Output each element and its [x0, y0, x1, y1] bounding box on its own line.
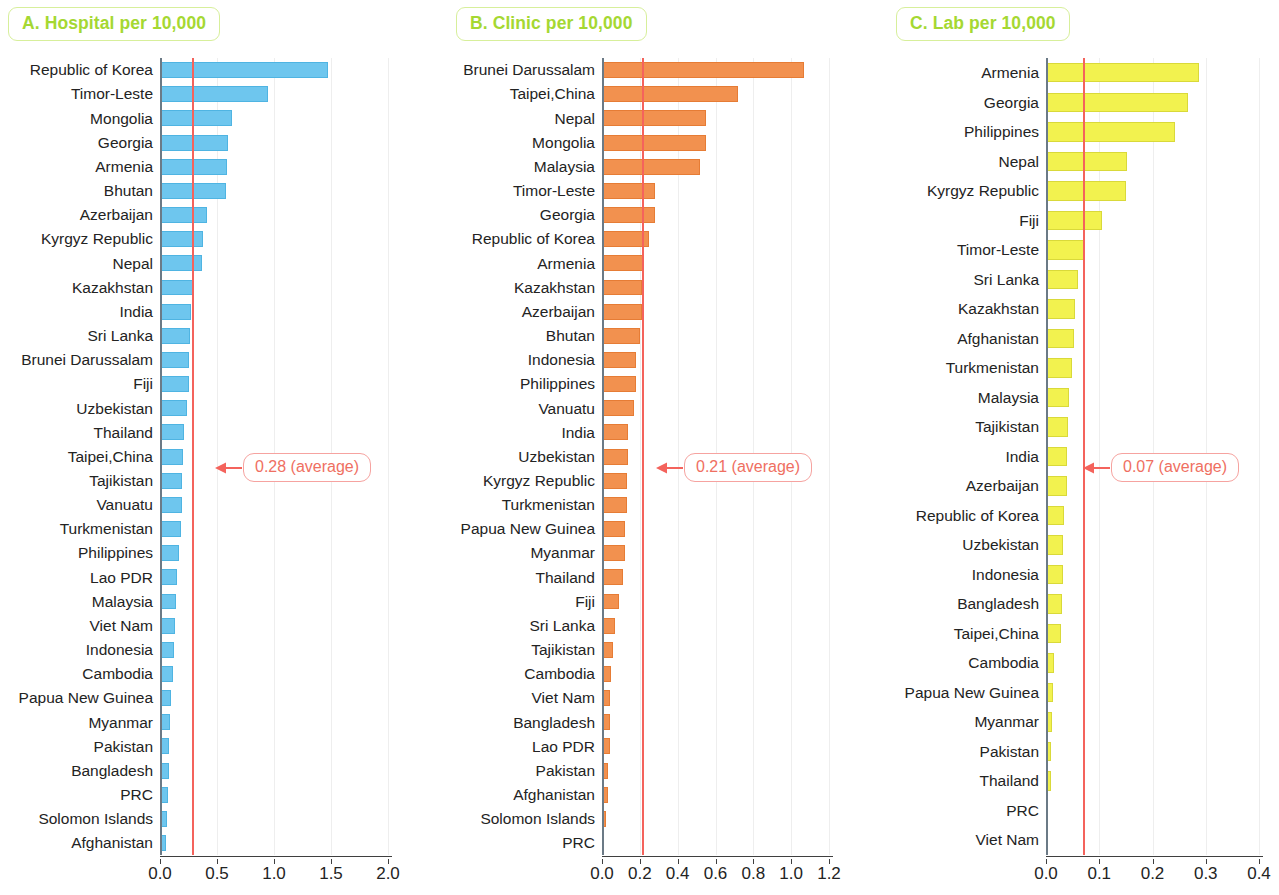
category-label: Pakistan: [0, 739, 160, 755]
bar-row: Uzbekistan: [880, 530, 1279, 560]
panel-a-hospital: A. Hospital per 10,000 Republic of Korea…: [0, 0, 440, 895]
bar: [160, 376, 189, 392]
bar-row: Mongolia: [0, 106, 440, 130]
category-label: Georgia: [0, 135, 160, 151]
bar-track: [160, 493, 440, 517]
category-label: India: [440, 425, 602, 441]
category-label: Tajikistan: [0, 473, 160, 489]
category-label: Philippines: [880, 124, 1046, 140]
category-label: Tajikistan: [440, 642, 602, 658]
category-label: Uzbekistan: [440, 449, 602, 465]
category-label: Indonesia: [440, 352, 602, 368]
bar-row: Philippines: [0, 541, 440, 565]
bar-row: Malaysia: [0, 589, 440, 613]
bar-track: [160, 734, 440, 758]
bar-row: Cambodia: [880, 648, 1279, 678]
bar-row: India: [0, 300, 440, 324]
bar-row: Timor-Leste: [0, 82, 440, 106]
bar: [160, 255, 202, 271]
bar-row: Myanmar: [880, 707, 1279, 737]
category-label: Republic of Korea: [0, 62, 160, 78]
bar: [1046, 181, 1126, 200]
bar-row: Lao PDR: [0, 565, 440, 589]
bar: [160, 231, 203, 247]
bar-row: Kyrgyz Republic: [880, 176, 1279, 206]
x-tick-label: 1.2: [817, 865, 841, 882]
bar-track: [1046, 530, 1279, 560]
bar: [160, 473, 182, 489]
category-label: Thailand: [880, 773, 1046, 789]
bar-track: [160, 614, 440, 638]
category-label: Kyrgyz Republic: [440, 473, 602, 489]
category-label: Viet Nam: [880, 832, 1046, 848]
bar: [1046, 93, 1188, 112]
bar: [602, 449, 628, 465]
bar-row: Viet Nam: [0, 614, 440, 638]
bar: [160, 400, 187, 416]
bar-row: Solomon Islands: [440, 807, 880, 831]
bar-row: Nepal: [0, 251, 440, 275]
bar-row: Nepal: [440, 106, 880, 130]
category-label: Turkmenistan: [440, 497, 602, 513]
y-axis-line: [602, 58, 604, 855]
bar-track: [160, 686, 440, 710]
bar: [160, 714, 170, 730]
bar-row: Sri Lanka: [880, 265, 1279, 295]
bar-row: Kazakhstan: [0, 275, 440, 299]
bar: [160, 690, 171, 706]
three-panel-bar-figure: A. Hospital per 10,000 Republic of Korea…: [0, 0, 1279, 895]
bar-row: PRC: [0, 783, 440, 807]
bar: [602, 594, 619, 610]
category-label: Solomon Islands: [440, 811, 602, 827]
x-tick-label: 0.0: [590, 865, 614, 882]
category-label: Fiji: [440, 594, 602, 610]
category-label: Solomon Islands: [0, 811, 160, 827]
category-label: Turkmenistan: [880, 360, 1046, 376]
x-tick-label: 0.3: [1194, 865, 1218, 882]
bar-row: Lao PDR: [440, 734, 880, 758]
category-label: Pakistan: [880, 744, 1046, 760]
category-label: Uzbekistan: [880, 537, 1046, 553]
category-label: Vanuatu: [0, 497, 160, 513]
category-label: Nepal: [440, 111, 602, 127]
bar-track: [160, 662, 440, 686]
bar-row: Armenia: [440, 251, 880, 275]
x-tick-label: 0.1: [1087, 865, 1111, 882]
category-label: Bangladesh: [880, 596, 1046, 612]
bar: [1046, 211, 1102, 230]
average-callout: 0.28 (average): [215, 453, 371, 482]
bar-row: Papua New Guinea: [440, 517, 880, 541]
bar: [160, 328, 190, 344]
bar-track: [1046, 294, 1279, 324]
category-label: India: [0, 304, 160, 320]
bar-track: [160, 275, 440, 299]
category-label: Kazakhstan: [440, 280, 602, 296]
category-label: Tajikistan: [880, 419, 1046, 435]
category-label: Lao PDR: [0, 570, 160, 586]
y-axis-line: [160, 58, 162, 855]
bar: [1046, 152, 1127, 171]
bar-track: [1046, 766, 1279, 796]
category-label: Taipei,China: [0, 449, 160, 465]
x-tick-label: 2.0: [376, 865, 400, 882]
bar: [160, 110, 232, 126]
bar-row: Georgia: [880, 88, 1279, 118]
bar-track: [160, 759, 440, 783]
average-value-label: 0.21 (average): [684, 453, 812, 482]
bar-row: Cambodia: [0, 662, 440, 686]
bar-track: [160, 396, 440, 420]
bar-row: Nepal: [880, 147, 1279, 177]
bar: [1046, 63, 1199, 82]
bar-row: Taipei,China: [440, 82, 880, 106]
bar-row: Malaysia: [880, 383, 1279, 413]
x-tick-label: 0.0: [148, 865, 172, 882]
x-tick-label: 1.5: [319, 865, 343, 882]
bar-row: Tajikistan: [440, 638, 880, 662]
bar-track: [1046, 796, 1279, 826]
panel-c-xaxis-labels: 0.00.10.20.30.4: [1046, 865, 1259, 889]
category-label: Bhutan: [0, 183, 160, 199]
bar-row: Brunei Darussalam: [0, 348, 440, 372]
category-label: Malaysia: [440, 159, 602, 175]
panel-b-title-wrap: B. Clinic per 10,000: [456, 8, 647, 40]
bar-track: [160, 565, 440, 589]
